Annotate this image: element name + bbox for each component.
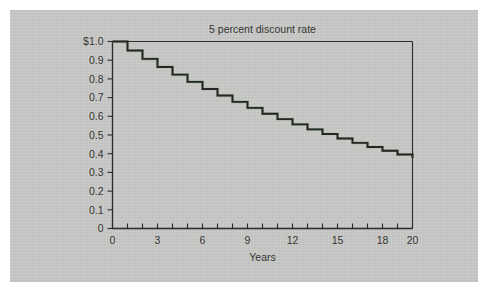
x-tick-label: 18 — [377, 234, 389, 246]
x-tick-label: 15 — [332, 234, 344, 246]
x-tick-label: 9 — [245, 234, 251, 246]
x-axis: 036912151820 — [110, 234, 419, 246]
x-tick-label: 12 — [287, 234, 299, 246]
y-axis: $1.00.90.80.70.60.50.40.30.20.10 — [83, 35, 112, 234]
y-tick-label: 0 — [98, 222, 104, 234]
y-tick-label: 0.6 — [89, 110, 104, 122]
x-tick-label: 0 — [110, 234, 116, 246]
axis-spines — [113, 42, 413, 229]
figure-container: $1.00.90.80.70.60.50.40.30.20.1003691215… — [0, 0, 488, 292]
y-tick-label: $1.0 — [83, 35, 104, 47]
x-axis-minor-ticks — [113, 224, 413, 229]
x-tick-label: 6 — [200, 234, 206, 246]
y-tick-label: 0.2 — [89, 185, 104, 197]
y-tick-label: 0.4 — [89, 148, 104, 160]
y-tick-label: 0.3 — [89, 166, 104, 178]
series-step-line — [113, 42, 413, 159]
y-tick-label: 0.1 — [89, 204, 104, 216]
x-tick-label: 3 — [155, 234, 161, 246]
y-tick-label: 0.8 — [89, 73, 104, 85]
chart-svg: $1.00.90.80.70.60.50.40.30.20.1003691215… — [0, 0, 488, 292]
y-tick-label: 0.9 — [89, 54, 104, 66]
x-axis-title: Years — [249, 251, 275, 263]
y-tick-label: 0.7 — [89, 91, 104, 103]
y-tick-label: 0.5 — [89, 129, 104, 141]
chart-title: 5 percent discount rate — [209, 23, 316, 35]
x-tick-label: 20 — [407, 234, 419, 246]
